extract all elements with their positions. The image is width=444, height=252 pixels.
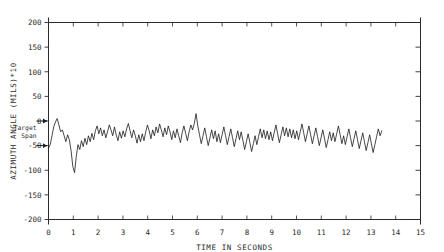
x-tick-label: 2 — [96, 228, 101, 237]
y-tick-label: -100 — [23, 166, 42, 175]
x-tick-label: 9 — [269, 228, 274, 237]
y-tick-label: 200 — [28, 18, 42, 27]
x-axis-ticks-bottom — [49, 213, 421, 225]
y-tick-label: 150 — [28, 43, 42, 52]
x-axis-tick-labels: 0123456789101112131415 — [46, 228, 425, 237]
x-tick-label: 11 — [317, 228, 326, 237]
x-tick-label: 14 — [391, 228, 401, 237]
y-tick-label: -150 — [23, 191, 42, 200]
x-tick-label: 6 — [195, 228, 200, 237]
target-span-label-line2: Span — [21, 132, 36, 140]
x-tick-label: 12 — [342, 228, 351, 237]
plot-frame — [49, 23, 421, 220]
y-axis-ticks-right — [416, 23, 421, 220]
x-axis-ticks-top — [49, 18, 421, 30]
y-axis-title: AZIMUTH ANGLE (MILS)*10 — [9, 62, 18, 180]
x-tick-label: 15 — [416, 228, 425, 237]
chart-figure: 0123456789101112131415 200150100500-50-1… — [0, 0, 444, 252]
x-tick-label: 1 — [71, 228, 76, 237]
azimuth-angle-time-chart: 0123456789101112131415 200150100500-50-1… — [0, 0, 444, 252]
x-tick-label: 0 — [46, 228, 51, 237]
x-tick-label: 7 — [220, 228, 225, 237]
x-tick-label: 8 — [245, 228, 250, 237]
x-tick-label: 10 — [292, 228, 302, 237]
target-span-label-line1: Target — [14, 124, 37, 132]
data-series-line — [49, 114, 382, 173]
x-tick-label: 13 — [366, 228, 375, 237]
x-tick-label: 5 — [170, 228, 175, 237]
y-tick-label: 50 — [32, 92, 42, 101]
x-tick-label: 4 — [145, 228, 150, 237]
y-tick-label: -200 — [23, 215, 42, 224]
x-axis-title: TIME IN SECONDS — [196, 243, 273, 252]
x-tick-label: 3 — [121, 228, 126, 237]
y-tick-label: 100 — [28, 68, 42, 77]
